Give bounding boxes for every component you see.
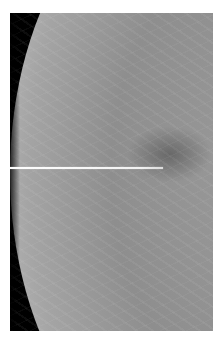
breast-tissue: [10, 13, 213, 331]
mammogram-image: [10, 13, 213, 331]
chest-wall-shadow: [10, 13, 20, 331]
localization-needle: [10, 167, 163, 169]
